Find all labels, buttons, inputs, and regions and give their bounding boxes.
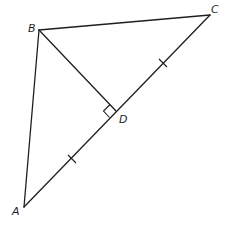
segment-ab (24, 30, 39, 207)
right-angle-marker (104, 105, 111, 118)
label-b: B (28, 22, 36, 35)
label-a: A (11, 205, 20, 218)
label-c: C (211, 3, 219, 16)
label-d: D (119, 113, 127, 126)
segment-bc (39, 15, 210, 30)
segment-bd (39, 30, 116, 111)
tick-mark-ad (68, 155, 76, 163)
triangle-diagram: B C A D (0, 0, 233, 226)
